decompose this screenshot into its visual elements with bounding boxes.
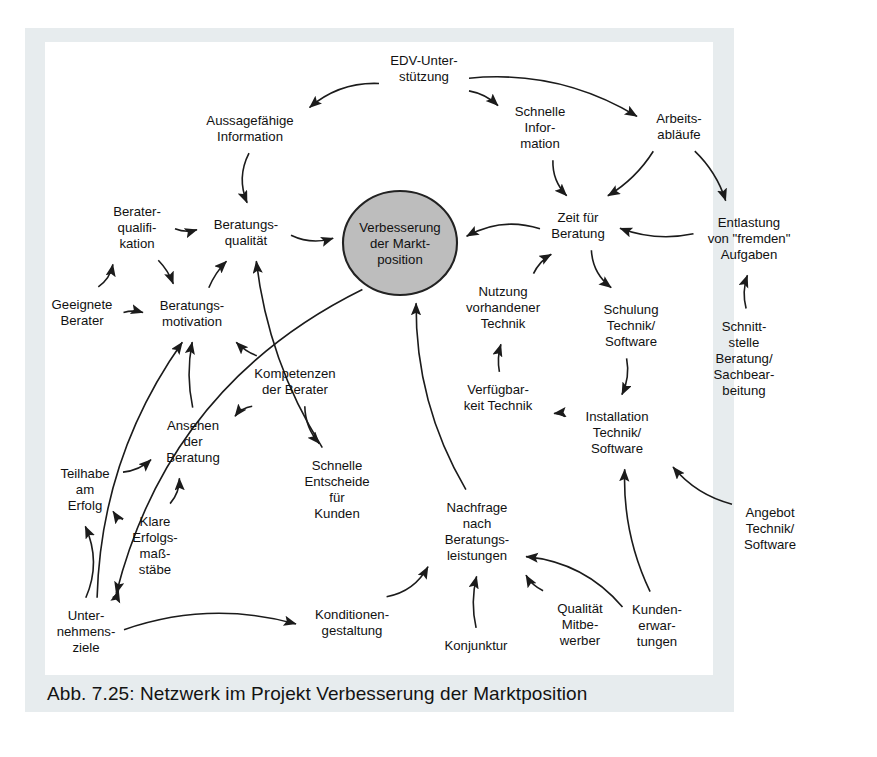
node-ansehen[interactable]: AnsehenderBeratung [166,418,220,465]
edge-konjunktur-to-nachfrage [473,576,476,628]
node-label-line: Schulung [604,302,659,317]
node-label-line: Sachbear- [714,367,775,382]
edge-schnelle_info-to-zeit [553,160,567,196]
edge-verfuegbar-to-nutzung [498,344,501,372]
node-label-line: Aussagefähige [206,113,293,128]
node-label-line: Unter- [68,608,105,623]
node-label-line: keit Technik [464,398,533,413]
node-arbeitsabl[interactable]: Arbeits-abläufe [656,111,701,142]
edge-schulung-to-installation [622,358,628,394]
node-edv[interactable]: EDV-Unter-stützung [390,53,457,84]
node-label-line: mation [520,136,560,151]
node-label-line: Schnelle [312,458,363,473]
node-aussage[interactable]: AussagefähigeInformation [206,113,293,144]
node-label-line: abläufe [657,127,700,142]
node-label-line: werber [559,633,601,648]
node-installation[interactable]: InstallationTechnik/Software [585,409,648,456]
node-label-line: Klare [140,514,171,529]
edge-kunden-to-installation [625,469,651,591]
node-geeignete[interactable]: GeeigneteBerater [52,297,113,328]
edge-beraterqual-to-beratungsq [175,229,197,232]
node-label-line: Teilhabe [60,466,109,481]
edge-kompetenzen-to-ansehen [235,406,252,416]
node-konditionen[interactable]: Konditionen-gestaltung [315,607,389,638]
node-label-line: Arbeits- [656,111,701,126]
node-label-line: Software [605,334,657,349]
node-schnelle_info[interactable]: SchnelleInfor-mation [515,104,566,151]
node-label-line: Konditionen- [315,607,389,622]
node-label-line: Schnitt- [722,319,767,334]
node-label-line: Beratung/ [715,351,773,366]
node-nutzung[interactable]: NutzungvorhandenerTechnik [466,284,541,331]
edge-beratungsm-to-beratungsq [209,261,227,288]
edge-arbeitsabl-to-zeit [608,151,654,196]
node-nachfrage[interactable]: NachfragenachBeratungs-leistungen [445,500,510,564]
node-kompetenzen[interactable]: Kompetenzender Berater [254,366,335,397]
edge-arbeitsabl-to-entlastung [695,151,726,201]
edge-qualitaet-to-nachfrage [526,575,543,591]
figure-page: Verbesserungder Markt-position EDV-Unter… [0,0,877,757]
node-label-line: Erfolgs- [132,530,177,545]
node-label-line: Mitbe- [562,617,599,632]
node-schulung[interactable]: SchulungTechnik/Software [604,302,659,349]
node-label-line: Zeit für [557,210,599,225]
hub-label-line: der Markt- [370,236,430,251]
edge-zeit-to-schulung [591,250,611,288]
node-label-line: stützung [399,69,449,84]
node-zeit[interactable]: Zeit fürBeratung [551,210,605,241]
node-label-line: Ansehen [167,418,219,433]
node-label-line: Verfügbar- [467,382,529,397]
node-label-line: Information [217,129,283,144]
node-label-line: vorhandener [466,300,541,315]
node-schnittst[interactable]: Schnitt-stelleBeratung/Sachbear-beitung [714,319,775,399]
node-label-line: Kompetenzen [254,366,335,381]
node-label-line: stäbe [139,562,171,577]
node-qualitaet[interactable]: QualitätMitbe-werber [557,601,603,648]
node-klare[interactable]: KlareErfolgs-maß-stäbe [132,514,177,578]
node-beratungsm[interactable]: Beratungs-motivation [160,298,225,329]
node-entlastung[interactable]: Entlastungvon "fremden"Aufgaben [708,215,791,262]
node-label-line: Software [744,537,796,552]
node-label-line: Erfolg [68,498,102,513]
edge-kunden-to-nachfrage [526,557,623,607]
node-label-line: nach [463,516,492,531]
node-angebot[interactable]: AngebotTechnik/Software [744,505,796,552]
node-label-line: Beratungs- [214,217,279,232]
node-label-line: qualifi- [118,220,157,235]
node-label-line: stelle [729,335,760,350]
node-label-line: leistungen [447,548,507,563]
node-label-line: beitung [722,383,765,398]
node-label-line: Kunden [314,506,359,521]
node-unternehmen[interactable]: Unter-nehmens-ziele [57,608,116,655]
node-label-line: kation [119,236,154,251]
node-label-line: Beratung [551,226,605,241]
node-beraterqual[interactable]: Berater-qualifi-kation [113,204,161,251]
hub-label-line: Verbesserung [359,220,440,235]
edge-unternehmen-to-konditionen [124,613,296,629]
node-kunden[interactable]: Kunden-erwar-tungen [632,602,682,649]
edge-schnittst-to-entlastung [744,275,747,308]
edge-nutzung-to-zeit [534,254,552,274]
node-label-line: Berater- [113,204,161,219]
edge-geeignete-to-beraterqual [98,264,113,287]
node-label-line: nehmens- [57,624,116,639]
edge-geeignete-to-beratungsm [124,311,144,313]
node-label-line: von "fremden" [708,231,791,246]
node-label-line: Kunden- [632,602,682,617]
edge-unternehmen-to-teilhabe [85,526,93,597]
node-label-line: Beratungs- [160,298,225,313]
node-teilhabe[interactable]: TeilhabeamErfolg [60,466,109,513]
node-label-line: der [183,434,203,449]
edge-layer [85,77,747,630]
edge-angebot-to-installation [673,467,732,504]
node-label-line: gestaltung [322,623,383,638]
node-schnelle_ent[interactable]: SchnelleEntscheidefürKunden [304,458,369,522]
edge-beratungsq-to-verbesserung [291,235,333,241]
node-beratungsq[interactable]: Beratungs-qualität [214,217,279,248]
node-label-line: Entlastung [718,215,780,230]
node-verfuegbar[interactable]: Verfügbar-keit Technik [464,382,533,413]
node-layer: EDV-Unter-stützungAussagefähigeInformati… [52,53,796,655]
node-konjunktur[interactable]: Konjunktur [444,638,508,653]
node-label-line: am [76,482,94,497]
edge-konditionen-to-nachfrage [387,567,428,597]
